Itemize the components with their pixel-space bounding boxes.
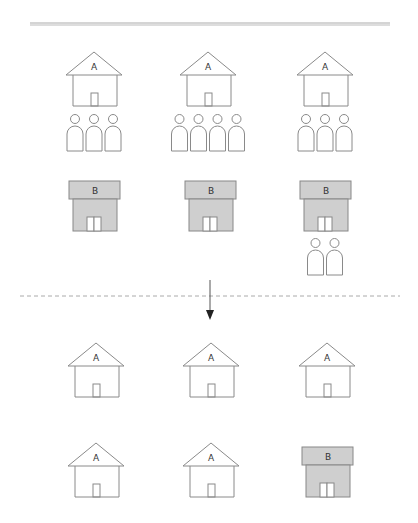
house-b-door-right	[94, 217, 101, 231]
house-label: A	[208, 453, 215, 463]
person-icon	[191, 115, 207, 152]
house-door	[93, 484, 100, 497]
person-body	[86, 126, 102, 151]
house-walls	[75, 366, 119, 397]
house-a: A	[183, 443, 239, 497]
after-scene: AAAAAB	[68, 343, 355, 497]
person-head	[311, 239, 320, 248]
house-a: A	[66, 52, 122, 106]
person-head	[71, 115, 80, 124]
person-body	[172, 126, 188, 151]
house-walls	[73, 75, 117, 106]
house-a: A	[183, 343, 239, 397]
down-arrow-icon	[206, 280, 214, 320]
house-door	[324, 384, 331, 397]
person-head	[321, 115, 330, 124]
house-walls	[306, 366, 350, 397]
person-icon	[336, 115, 352, 152]
house-b-door-right	[210, 217, 217, 231]
person-body	[67, 126, 83, 151]
house-a-with-residents: A	[297, 52, 353, 151]
person-body	[327, 250, 343, 275]
person-icon	[308, 239, 324, 276]
person-head	[302, 115, 311, 124]
house-label: B	[323, 186, 329, 196]
person-head	[330, 239, 339, 248]
house-walls	[187, 75, 231, 106]
person-head	[175, 115, 184, 124]
house-walls	[304, 75, 348, 106]
person-icon	[298, 115, 314, 152]
person-icon	[229, 115, 245, 152]
person-body	[308, 250, 324, 275]
house-a-with-residents: A	[172, 52, 245, 151]
person-body	[105, 126, 121, 151]
house-b: B	[300, 181, 351, 231]
person-body	[229, 126, 245, 151]
house-a: A	[68, 343, 124, 397]
person-icon	[86, 115, 102, 152]
person-body	[210, 126, 226, 151]
person-head	[109, 115, 118, 124]
diagram-canvas: AAABBB AAAAAB	[0, 0, 418, 523]
house-b-with-residents: B	[69, 181, 120, 231]
house-b-door-left	[320, 483, 327, 497]
house-a-with-residents: A	[66, 52, 122, 151]
house-label: A	[93, 353, 100, 363]
before-scene: AAABBB	[66, 52, 353, 275]
house-door	[93, 384, 100, 397]
people-group	[308, 239, 343, 276]
house-b: B	[302, 447, 353, 497]
house-walls	[75, 466, 119, 497]
people-group	[298, 115, 352, 152]
house-walls	[190, 366, 234, 397]
house-door	[205, 93, 212, 106]
house-label: B	[325, 452, 331, 462]
house-b-with-residents: B	[300, 181, 351, 275]
house-label: A	[91, 62, 98, 72]
person-icon	[172, 115, 188, 152]
house-label: A	[208, 353, 215, 363]
house-label: B	[208, 186, 214, 196]
person-body	[336, 126, 352, 151]
person-body	[191, 126, 207, 151]
house-b-door-left	[318, 217, 325, 231]
person-body	[298, 126, 314, 151]
person-head	[340, 115, 349, 124]
house-door	[208, 384, 215, 397]
house-label: A	[324, 353, 331, 363]
person-body	[317, 126, 333, 151]
house-a: A	[68, 443, 124, 497]
house-a: A	[180, 52, 236, 106]
house-a: A	[297, 52, 353, 106]
house-b-with-residents: B	[185, 181, 236, 231]
house-label: B	[92, 186, 98, 196]
people-group	[67, 115, 121, 152]
house-walls	[190, 466, 234, 497]
person-head	[232, 115, 241, 124]
person-icon	[210, 115, 226, 152]
person-head	[90, 115, 99, 124]
house-label: A	[93, 453, 100, 463]
double-divider-line	[30, 23, 390, 25]
house-b: B	[69, 181, 120, 231]
person-icon	[67, 115, 83, 152]
person-icon	[327, 239, 343, 276]
arrow-head	[206, 310, 214, 320]
house-b-door-right	[325, 217, 332, 231]
person-icon	[105, 115, 121, 152]
people-group	[172, 115, 245, 152]
person-head	[213, 115, 222, 124]
house-b-door-right	[327, 483, 334, 497]
house-a: A	[299, 343, 355, 397]
house-b-door-left	[203, 217, 210, 231]
house-label: A	[322, 62, 329, 72]
person-head	[194, 115, 203, 124]
house-door	[208, 484, 215, 497]
house-label: A	[205, 62, 212, 72]
house-door	[91, 93, 98, 106]
person-icon	[317, 115, 333, 152]
house-door	[322, 93, 329, 106]
house-b: B	[185, 181, 236, 231]
house-b-door-left	[87, 217, 94, 231]
